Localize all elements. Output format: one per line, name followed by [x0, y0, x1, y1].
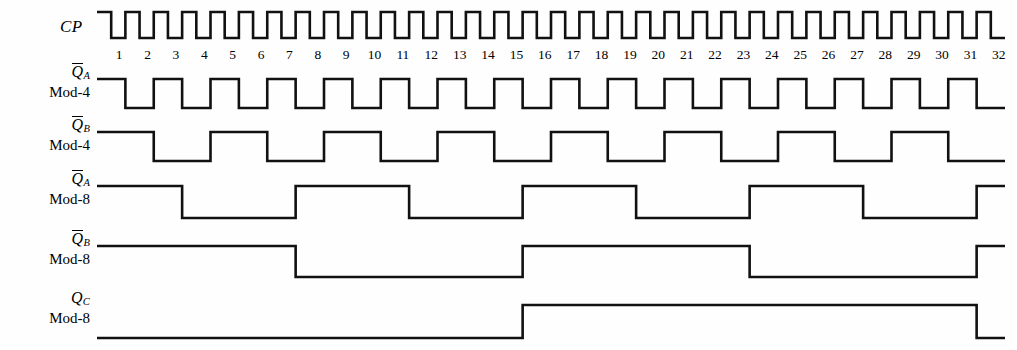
waveform-qb-mod8 — [97, 246, 1005, 277]
waveform-canvas — [0, 0, 1017, 350]
waveform-qc-mod8 — [97, 305, 1005, 338]
waveform-qb-mod4 — [97, 132, 1005, 161]
waveform-qa-mod4 — [97, 79, 1005, 108]
waveform-cp — [97, 12, 1005, 38]
waveform-qa-mod8 — [97, 186, 1005, 218]
timing-diagram-figure: CP QAMod-4QBMod-4QAMod-8QBMod-8QCMod-8 1… — [0, 0, 1017, 350]
